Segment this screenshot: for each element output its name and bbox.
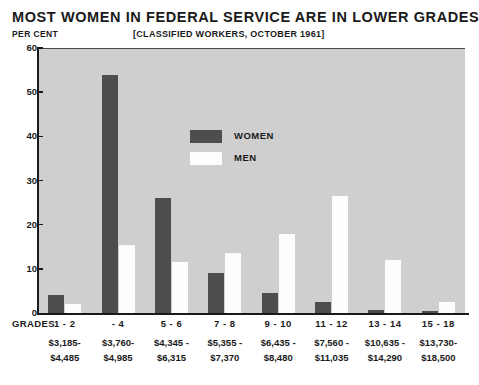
legend-label-men: MEN xyxy=(234,152,257,163)
page-title: MOST WOMEN IN FEDERAL SERVICE ARE IN LOW… xyxy=(12,9,479,25)
y-tick-mark xyxy=(37,268,43,269)
y-tick-label: 60 xyxy=(7,43,37,53)
bar-chart: MOST WOMEN IN FEDERAL SERVICE ARE IN LOW… xyxy=(0,0,479,385)
y-tick-label: 20 xyxy=(7,220,37,230)
x-axis-labels: GRADES 1 - 2$3,185-$4,485- 4$3,760-$4,98… xyxy=(0,318,479,384)
y-tick-label: 0 xyxy=(7,308,37,318)
y-tick-label: 40 xyxy=(7,131,37,141)
y-tick-mark xyxy=(37,224,43,225)
bar-men xyxy=(439,302,455,313)
x-pay-low: $13,730- xyxy=(398,335,478,350)
bar-men xyxy=(225,253,241,313)
y-tick-label: 10 xyxy=(7,264,37,274)
bar-men xyxy=(172,262,188,313)
bar-women xyxy=(315,302,331,313)
legend-swatch-women-icon xyxy=(190,130,222,143)
bar-men xyxy=(385,260,401,313)
x-grade-range: 15 - 18 xyxy=(398,318,478,330)
y-tick-label: 30 xyxy=(7,176,37,186)
plot-top-border xyxy=(38,48,465,49)
bar-women xyxy=(368,310,384,313)
y-tick-mark xyxy=(37,180,43,181)
bar-men xyxy=(332,196,348,313)
bar-women xyxy=(102,75,118,314)
x-axis-line xyxy=(37,313,469,315)
bar-women xyxy=(422,311,438,313)
bar-women xyxy=(155,198,171,313)
legend-swatch-men-icon xyxy=(190,152,222,165)
y-tick-mark xyxy=(37,91,43,92)
bar-women xyxy=(262,293,278,313)
x-pay-high: $18,500 xyxy=(398,350,478,365)
bar-women xyxy=(48,295,64,313)
bar-men xyxy=(65,304,81,313)
bar-men xyxy=(279,234,295,314)
y-tick-label: 50 xyxy=(7,87,37,97)
y-tick-mark xyxy=(37,136,43,137)
bar-men xyxy=(119,245,135,313)
legend-label-women: WOMEN xyxy=(234,130,274,141)
x-axis-group-label: 15 - 18$13,730-$18,500 xyxy=(398,318,478,365)
bar-women xyxy=(208,273,224,313)
chart-subtitle: [CLASSIFIED WORKERS, OCTOBER 1961] xyxy=(133,29,325,39)
y-tick-mark xyxy=(37,47,43,48)
